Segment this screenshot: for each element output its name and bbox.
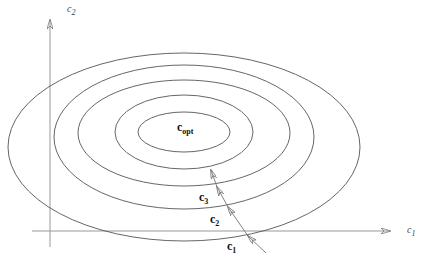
descent-step-arrow — [217, 187, 228, 207]
descent-step-arrow — [228, 207, 248, 236]
x-axis-label: c1 — [407, 225, 415, 238]
iterate-label-c1: c1 — [227, 240, 236, 255]
y-axis-label: c2 — [67, 4, 75, 17]
descent-path — [211, 170, 266, 253]
iterate-label-c2: c2 — [210, 213, 219, 228]
contour-4 — [54, 65, 314, 209]
descent-step-arrow — [248, 236, 266, 253]
optimum-label: copt — [177, 121, 193, 136]
contour-5 — [8, 53, 360, 241]
contour-lines — [8, 53, 360, 241]
iterate-label-c3: c3 — [199, 191, 208, 206]
